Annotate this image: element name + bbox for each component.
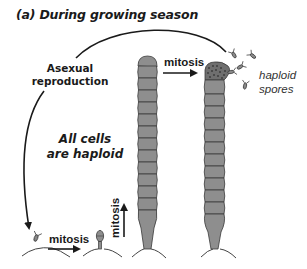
sporulating-filament-icon [204,62,229,249]
germling-icon [96,230,103,249]
mitosis-label-top: mitosis [164,56,204,68]
filament-icon [138,56,158,249]
spores-label-line1: haploid [259,68,296,82]
mitosis-label-vertical: mitosis [109,198,121,238]
asexual-label-line2: reproduction [30,75,110,88]
all-cells-line2: are haploid [40,147,130,162]
asexual-label-line1: Asexual [30,62,110,75]
landed-spore-icon [31,231,42,243]
haploid-spores-label: haploid spores [259,68,296,96]
all-cells-line1: All cells [40,132,130,147]
haploid-spore-icons [227,48,257,89]
asexual-reproduction-label: Asexual reproduction [30,62,110,88]
mitosis-label-bottom: mitosis [49,233,89,245]
spores-label-line2: spores [259,82,296,96]
all-cells-haploid-label: All cells are haploid [40,132,130,162]
life-cycle-diagram: (a) During growing season [0,0,307,269]
asexual-cycle-curve-top [76,30,226,58]
